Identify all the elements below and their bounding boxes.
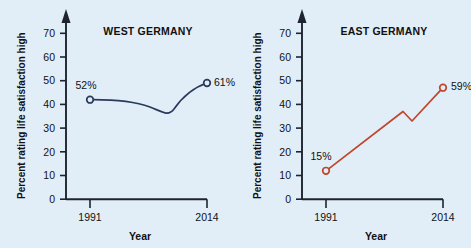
west-ytick-label-70: 70 [43,27,55,39]
west-data-line [90,83,207,113]
east-ytick-label-20: 20 [279,146,291,158]
east-y-axis-label: Percent rating life satisfaction high [252,32,263,199]
east-ytick-label-50: 50 [279,74,291,86]
east-germany-plot: Percent rating life satisfaction high 70… [236,0,471,248]
east-ytick-label-60: 60 [279,51,291,63]
east-panel-title: EAST GERMANY [340,25,427,37]
west-ytick-label-0: 0 [49,193,55,205]
east-ytick-label-10: 10 [279,169,291,181]
west-label-end: 61% [214,76,235,88]
east-ytick-label-0: 0 [285,193,291,205]
east-label-start: 15% [310,150,331,162]
west-y-axis-arrow [62,9,71,23]
east-xtick-label-1991: 1991 [314,211,338,223]
west-marker-start [87,96,94,103]
east-label-end: 59% [451,80,471,92]
west-ytick-label-30: 30 [43,122,55,134]
west-marker-end [204,80,211,87]
east-ytick-label-70: 70 [279,27,291,39]
west-xtick-label-1991: 1991 [78,211,102,223]
east-x-axis-label: Year [364,230,386,242]
west-ytick-label-40: 40 [43,98,55,110]
panel-west-germany: Percent rating life satisfaction high 70… [0,0,236,248]
west-xtick-label-2014: 2014 [195,211,219,223]
east-ytick-label-40: 40 [279,98,291,110]
east-data-line [326,88,443,171]
chart-panels: Percent rating life satisfaction high 70… [0,0,471,248]
panel-east-germany: Percent rating life satisfaction high 70… [236,0,471,248]
west-germany-plot: Percent rating life satisfaction high 70… [0,0,236,248]
east-y-axis-arrow [297,9,306,23]
west-panel-title: WEST GERMANY [103,25,192,37]
west-ytick-label-50: 50 [43,74,55,86]
west-ytick-label-10: 10 [43,169,55,181]
west-label-start: 52% [75,79,96,91]
east-marker-start [322,168,329,175]
east-xtick-label-2014: 2014 [431,211,455,223]
west-ytick-label-20: 20 [43,146,55,158]
west-ytick-label-60: 60 [43,51,55,63]
east-ytick-label-30: 30 [279,122,291,134]
east-marker-end [439,84,446,91]
west-y-axis-label: Percent rating life satisfaction high [16,32,27,199]
west-x-axis-label: Year [129,230,151,242]
